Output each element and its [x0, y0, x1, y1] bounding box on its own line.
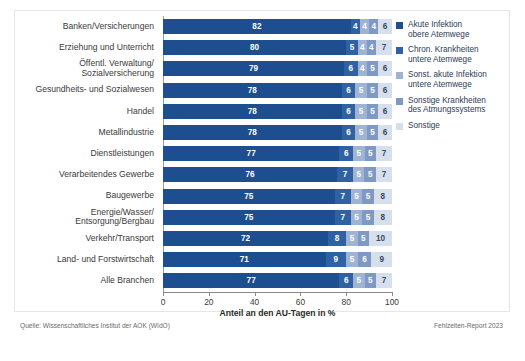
chart-row: Gesundheits- und Sozialwesen786556	[18, 81, 394, 100]
chart-row: Banken/Versicherungen824446	[18, 17, 394, 36]
bar-segment: 5	[365, 273, 376, 288]
chart-row: Verarbeitendes Gewerbe767557	[18, 165, 394, 184]
bar-segment: 5	[353, 167, 364, 182]
bar-segment: 9	[326, 252, 347, 267]
legend-swatch	[396, 22, 403, 29]
bar-segment: 5	[346, 231, 357, 246]
bar-segment: 5	[364, 167, 375, 182]
x-tick-label: 20	[204, 297, 213, 307]
legend-swatch	[396, 98, 403, 105]
stacked-bar: 776557	[163, 146, 392, 161]
legend-item: Sonstige Krankheiten des Atmungssystems	[396, 96, 522, 115]
chart-row: Energie/Wasser/ Entsorgung/Bergbau757558	[18, 208, 394, 227]
bar-segment: 5	[365, 146, 376, 161]
category-label: Alle Branchen	[18, 276, 159, 285]
bar-segment: 77	[163, 146, 339, 161]
category-label: Energie/Wasser/ Entsorgung/Bergbau	[18, 208, 159, 227]
bar-segment: 6	[339, 146, 353, 161]
bar-segment: 7	[335, 210, 351, 225]
legend-item: Chron. Krankheiten untere Atemwege	[396, 45, 522, 64]
legend-item: Sonst. akute Infektion untere Atemwege	[396, 70, 522, 89]
x-tick-label: 100	[385, 297, 399, 307]
category-label: Baugewerbe	[18, 191, 159, 200]
category-label: Land- und Forstwirtschaft	[18, 255, 159, 264]
category-label: Dienstleistungen	[18, 149, 159, 158]
bar-segment: 5	[355, 104, 366, 119]
x-axis-line	[163, 292, 392, 293]
bar-segment: 6	[342, 83, 356, 98]
chart-row: Erziehung und Unterricht805447	[18, 38, 394, 57]
chart-row: Dienstleistungen776557	[18, 144, 394, 163]
legend-label: Sonstige Krankheiten des Atmungssystems	[408, 96, 486, 115]
bar-segment: 5	[346, 252, 357, 267]
bar-segment: 78	[163, 125, 342, 140]
bar-segment: 6	[378, 61, 392, 76]
category-label: Verarbeitendes Gewerbe	[18, 170, 159, 179]
bar-segment: 7	[376, 273, 392, 288]
bar-segment: 5	[353, 146, 364, 161]
bar-segment: 6	[378, 104, 392, 119]
bar-segment: 6	[344, 61, 358, 76]
bar-segment: 5	[358, 231, 369, 246]
category-label: Metallindustrie	[18, 128, 159, 137]
bar-segment: 5	[355, 125, 366, 140]
x-tick	[392, 292, 393, 296]
legend-swatch	[396, 123, 403, 130]
bar-segment: 78	[163, 104, 342, 119]
legend-swatch	[396, 47, 403, 54]
bar-segment: 75	[163, 210, 335, 225]
bar-segment: 75	[163, 189, 335, 204]
stacked-bar: 796456	[163, 61, 392, 76]
bar-segment: 80	[163, 40, 346, 55]
bar-segment: 5	[367, 61, 378, 76]
bar-segment: 5	[351, 189, 362, 204]
bar-segment: 4	[351, 19, 360, 34]
category-label: Banken/Versicherungen	[18, 22, 159, 31]
legend-swatch	[396, 72, 403, 79]
bar-segment: 4	[360, 19, 369, 34]
bar-segment: 5	[351, 210, 362, 225]
bar-segment: 4	[367, 40, 376, 55]
chart-row: Baugewerbe757558	[18, 187, 394, 206]
stacked-bar: 805447	[163, 40, 392, 55]
bar-segment: 72	[163, 231, 328, 246]
x-tick	[346, 292, 347, 296]
category-label: Verkehr/Transport	[18, 234, 159, 243]
bar-segment: 76	[163, 167, 337, 182]
x-tick-label: 0	[161, 297, 166, 307]
bar-segment: 79	[163, 61, 344, 76]
bar-segment: 4	[358, 40, 367, 55]
chart-row: Verkehr/Transport7285510	[18, 229, 394, 248]
bar-segment: 8	[374, 210, 392, 225]
bar-segment: 71	[163, 252, 326, 267]
bar-segment: 6	[378, 125, 392, 140]
chart-row: Metallindustrie786556	[18, 123, 394, 142]
legend-label: Chron. Krankheiten untere Atemwege	[408, 45, 479, 64]
stacked-bar: 786556	[163, 83, 392, 98]
source-note: Quelle: Wissenschaftliches Institut der …	[20, 322, 170, 329]
bar-segment: 4	[358, 61, 367, 76]
bar-segment: 8	[328, 231, 346, 246]
report-note: Fehlzeiten-Report 2023	[434, 322, 503, 329]
chart-row: Alle Branchen776557	[18, 271, 394, 290]
chart-row: Öffentl. Verwaltung/ Sozialversicherung7…	[18, 59, 394, 78]
category-label: Gesundheits- und Sozialwesen	[18, 85, 159, 94]
chart-row: Land- und Forstwirtschaft719569	[18, 250, 394, 269]
bar-segment: 7	[335, 189, 351, 204]
bar-segment: 6	[358, 252, 372, 267]
bar-segment: 9	[371, 252, 392, 267]
bar-segment: 6	[378, 19, 392, 34]
stacked-bar: 786556	[163, 104, 392, 119]
bar-segment: 5	[346, 40, 357, 55]
bar-segment: 7	[376, 167, 392, 182]
bar-segment: 5	[367, 104, 378, 119]
category-label: Erziehung und Unterricht	[18, 43, 159, 52]
bar-segment: 6	[378, 83, 392, 98]
legend-label: Akute Infektion obere Atemwege	[408, 20, 469, 39]
stacked-bar: 767557	[163, 167, 392, 182]
stacked-bar: 786556	[163, 125, 392, 140]
chart-legend: Akute Infektion obere AtemwegeChron. Kra…	[396, 20, 522, 136]
bar-segment: 77	[163, 273, 339, 288]
bar-segment: 6	[342, 125, 356, 140]
stacked-bar: 776557	[163, 273, 392, 288]
